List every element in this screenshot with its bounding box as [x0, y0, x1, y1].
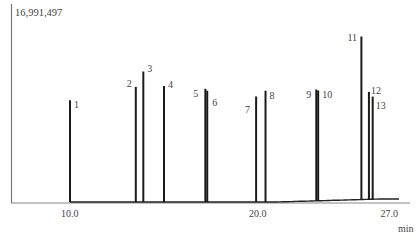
chromatogram-chart: 16,991,497 10.020.027.0 1234567891011121…	[0, 0, 420, 238]
peak-label-7: 7	[245, 105, 250, 115]
baseline-trace	[70, 199, 399, 202]
peak-label-6: 6	[212, 98, 217, 108]
peak-label-3: 3	[147, 64, 152, 74]
peak-label-8: 8	[270, 91, 275, 101]
peak-label-9: 9	[306, 90, 311, 100]
peak-label-4: 4	[168, 80, 173, 90]
peak-label-12: 12	[371, 86, 381, 96]
peaks	[70, 37, 373, 202]
peak-label-5: 5	[193, 89, 198, 99]
x-axis-unit-label: min	[398, 224, 414, 234]
x-tick-label: 20.0	[249, 209, 267, 219]
x-tick-label: 27.0	[381, 209, 399, 219]
peak-label-13: 13	[376, 101, 386, 111]
peak-label-10: 10	[322, 90, 332, 100]
x-tick-label: 10.0	[61, 209, 79, 219]
y-max-label: 16,991,497	[15, 8, 62, 19]
peak-label-11: 11	[347, 33, 357, 43]
peak-label-2: 2	[127, 79, 132, 89]
peak-label-1: 1	[74, 100, 79, 110]
